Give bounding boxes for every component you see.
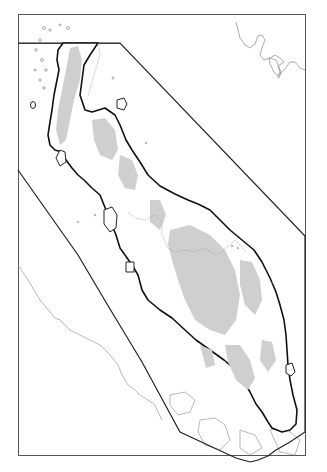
island-east: [286, 363, 295, 376]
island-mid: [126, 262, 134, 272]
island-west-2: [56, 150, 66, 166]
north-coastline: [236, 22, 305, 76]
southwest-coastline: [18, 265, 162, 420]
map-canvas: [0, 0, 327, 472]
island-ne: [117, 98, 127, 110]
